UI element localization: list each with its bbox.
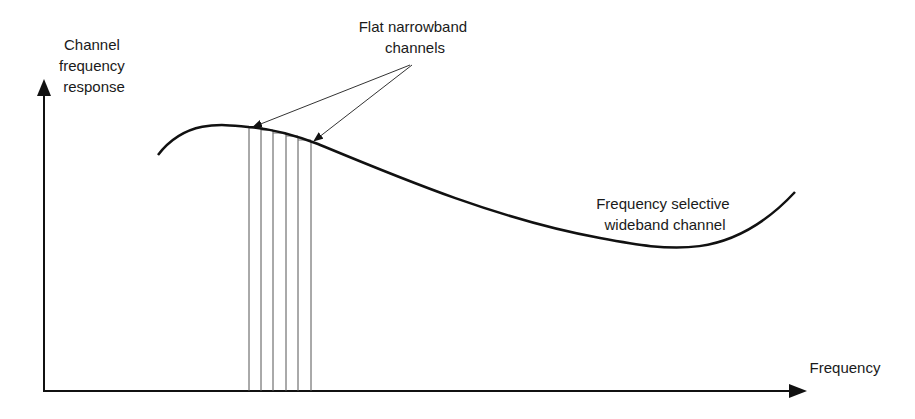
diagram-canvas: Channel frequency response Flat narrowba… (0, 0, 915, 419)
wideband-annotation-line: Frequency selective (596, 195, 729, 212)
narrowband-annotation-line: Flat narrowband (359, 18, 467, 35)
narrowband-annotation: Flat narrowband channels (359, 18, 472, 56)
y-axis-label: Channel frequency response (59, 36, 129, 95)
y-axis-label-line: response (63, 78, 125, 95)
wideband-annotation: Frequency selective wideband channel (596, 195, 734, 233)
x-axis-label: Frequency (810, 359, 881, 376)
narrowband-pointers (253, 65, 412, 141)
axes (37, 79, 807, 398)
wideband-annotation-line: wideband channel (604, 216, 726, 233)
narrowband-annotation-line: channels (385, 39, 445, 56)
y-axis-label-line: frequency (59, 57, 125, 74)
pointer-arrow (314, 65, 412, 141)
pointer-arrow (253, 65, 410, 127)
narrowband-channels (249, 128, 311, 391)
x-axis-arrowhead (789, 384, 807, 398)
y-axis-arrowhead (37, 79, 51, 96)
y-axis-label-line: Channel (64, 36, 120, 53)
